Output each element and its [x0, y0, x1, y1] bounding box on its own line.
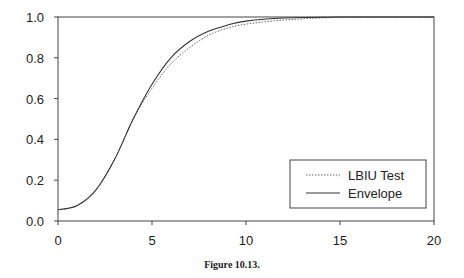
y-tick-label: 0.0: [26, 214, 44, 229]
y-tick-label: 0.2: [26, 173, 44, 188]
line-chart: 0.00.20.40.60.81.0 05101520 LBIU TestEnv…: [0, 0, 464, 278]
legend: LBIU TestEnvelope: [290, 160, 426, 208]
y-axis: 0.00.20.40.60.81.0: [26, 10, 58, 229]
y-tick-label: 0.8: [26, 51, 44, 66]
figure-caption: Figure 10.13.: [204, 259, 260, 270]
x-axis: 05101520: [54, 221, 441, 248]
y-tick-label: 0.4: [26, 132, 44, 147]
x-tick-label: 20: [427, 233, 441, 248]
y-tick-label: 0.6: [26, 92, 44, 107]
x-tick-label: 15: [333, 233, 347, 248]
x-tick-label: 0: [54, 233, 61, 248]
legend-label: LBIU Test: [348, 168, 405, 183]
x-tick-label: 5: [148, 233, 155, 248]
legend-label: Envelope: [348, 186, 402, 201]
x-tick-label: 10: [239, 233, 253, 248]
y-tick-label: 1.0: [26, 10, 44, 25]
